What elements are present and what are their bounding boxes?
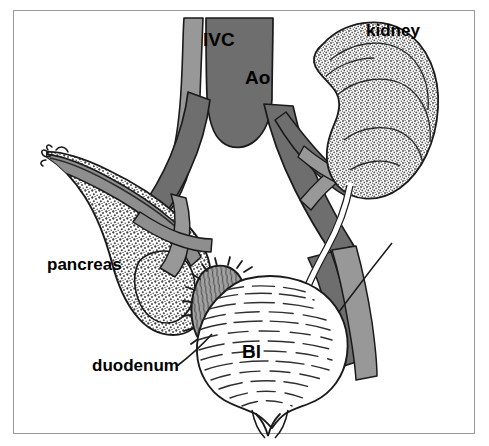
urinary-bladder (197, 276, 348, 438)
right-kidney (314, 22, 438, 198)
label-pancreas: pancreas (47, 255, 122, 274)
label-duodenum: duodenum (92, 356, 179, 375)
label-bladder: Bl (242, 341, 261, 362)
anatomical-figure: IVC Ao kidney pancreas duodenum Bl (0, 0, 489, 446)
label-aorta: Ao (245, 67, 270, 88)
label-ivc: IVC (203, 29, 235, 50)
anatomy-illustration: IVC Ao kidney pancreas duodenum Bl (0, 0, 489, 446)
label-kidney: kidney (366, 21, 420, 40)
